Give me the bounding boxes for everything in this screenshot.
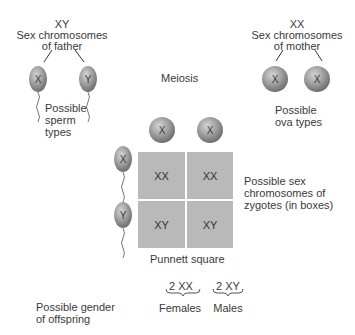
sperm-x-label: X: [31, 74, 45, 86]
punnett-cell: XY: [187, 201, 233, 248]
punnett-cell: XX: [187, 152, 233, 199]
female-count: 2 XX: [163, 280, 199, 292]
ovum-label: X: [268, 74, 282, 86]
row-header-2: Y: [116, 210, 130, 222]
male-label: Males: [208, 302, 248, 314]
father-label-2: of father: [22, 40, 102, 52]
punnett-cell: XY: [138, 201, 185, 248]
col-header-1: X: [155, 125, 169, 137]
sperm-label-1: Possible: [45, 102, 87, 114]
sperm-y-label: Y: [81, 74, 95, 86]
sperm-label-2: sperm: [45, 114, 76, 126]
col-header-2: X: [203, 125, 217, 137]
zygote-label-2: chromosomes of: [244, 187, 325, 199]
offspring-label-1: Possible gender: [36, 301, 115, 313]
punnett-caption: Punnett square: [150, 253, 225, 265]
male-count: 2 XY: [210, 280, 246, 292]
meiosis-label: Meiosis: [161, 72, 198, 84]
zygote-label-1: Possible sex: [244, 175, 306, 187]
mother-label-2: of mother: [257, 40, 337, 52]
ovum-label: X: [310, 74, 324, 86]
sperm-label-3: types: [45, 126, 71, 138]
female-label: Females: [157, 302, 203, 314]
zygote-label-3: zygotes (in boxes): [244, 199, 333, 211]
offspring-label-2: of offspring: [36, 313, 90, 325]
ova-label-1: Possible: [275, 104, 317, 116]
ova-label-2: ova types: [275, 116, 322, 128]
punnett-cell: XX: [138, 152, 185, 199]
row-header-1: X: [116, 154, 130, 166]
